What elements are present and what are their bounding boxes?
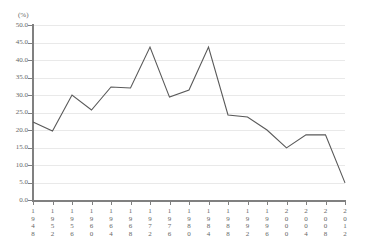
data-line (33, 47, 345, 183)
line-chart: (%) 50.045.040.035.030.025.020.015.010.0… (0, 0, 367, 248)
series-layer (0, 0, 367, 248)
